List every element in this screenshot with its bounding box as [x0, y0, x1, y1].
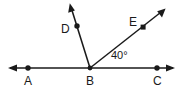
point-label-c: C [153, 75, 162, 87]
point-dot-a [25, 65, 30, 70]
point-label-d: D [61, 23, 70, 35]
arrowhead-ray-bd [68, 3, 75, 13]
arrowhead-line-ac-right [166, 65, 175, 72]
point-label-e: E [129, 16, 137, 28]
ray-bd [71, 9, 90, 69]
arrowhead-ray-be [157, 9, 165, 18]
point-label-a: A [24, 75, 32, 87]
angle-measure-label: 40° [111, 50, 128, 61]
arrowhead-line-ac-left [8, 65, 17, 72]
point-dot-b [88, 66, 93, 71]
point-dot-d [74, 23, 79, 28]
point-dot-c [154, 65, 159, 70]
point-dot-e [141, 25, 146, 30]
point-label-b: B [86, 75, 94, 87]
geometry-figure: A B C D E 40° [0, 0, 183, 100]
